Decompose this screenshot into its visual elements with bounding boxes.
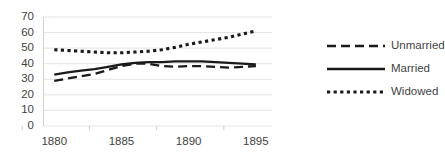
- y-tick-label: 60: [8, 27, 34, 39]
- y-tick-label: 50: [8, 42, 34, 54]
- x-tick-label: 1890: [167, 136, 211, 148]
- x-tick-label: 1895: [234, 136, 278, 148]
- series-line-unmarried: [54, 64, 256, 81]
- y-tick-label: 0: [8, 120, 34, 132]
- x-tick-label: 1880: [32, 136, 76, 148]
- y-tick-label: 70: [8, 11, 34, 23]
- legend-label-married: Married: [391, 63, 430, 75]
- legend-label-widowed: Widowed: [391, 86, 438, 98]
- x-tick-label: 1885: [99, 136, 143, 148]
- y-tick-label: 20: [8, 89, 34, 101]
- series-lines: [54, 31, 256, 81]
- axis-lines: [22, 17, 224, 130]
- y-tick-label: 30: [8, 73, 34, 85]
- legend-label-unmarried: Unmarried: [391, 40, 445, 52]
- series-line-widowed: [54, 31, 256, 53]
- y-tick-label: 40: [8, 58, 34, 70]
- legend-swatches: [327, 46, 385, 92]
- y-tick-label: 10: [8, 104, 34, 116]
